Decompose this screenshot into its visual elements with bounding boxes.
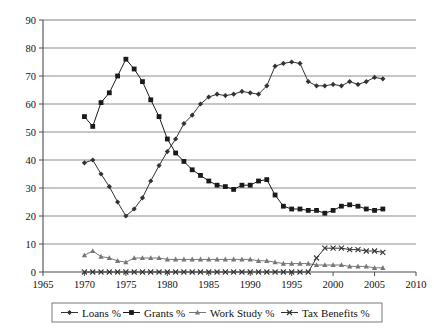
data-point <box>347 202 352 207</box>
legend-label: Work Study % <box>210 307 275 319</box>
y-tick-label: 80 <box>26 43 37 54</box>
data-point <box>298 207 303 212</box>
data-point <box>356 204 361 209</box>
data-point <box>215 183 220 188</box>
y-tick-label: 90 <box>26 15 37 26</box>
data-point <box>99 100 104 105</box>
x-tick-label: 2010 <box>406 279 427 290</box>
data-point <box>240 183 245 188</box>
data-point <box>264 177 269 182</box>
data-point <box>314 208 319 213</box>
data-point <box>273 193 278 198</box>
x-tick-label: 2000 <box>323 279 344 290</box>
data-point <box>173 151 178 156</box>
x-tick-label: 1970 <box>74 279 95 290</box>
data-point <box>339 204 344 209</box>
data-point <box>140 79 145 84</box>
legend-label: Tax Benefits % <box>302 307 370 319</box>
data-point <box>322 211 327 216</box>
data-point <box>306 208 311 213</box>
data-point <box>289 207 294 212</box>
data-point <box>123 57 128 62</box>
x-tick-label: 1980 <box>157 279 178 290</box>
data-point <box>165 137 170 142</box>
data-point <box>380 207 385 212</box>
data-point <box>115 74 120 79</box>
data-point <box>198 173 203 178</box>
data-point <box>107 90 112 95</box>
line-chart: 0102030405060708090 19651970197519801985… <box>0 0 434 332</box>
y-axis-ticks: 0102030405060708090 <box>26 15 44 278</box>
data-point <box>206 179 211 184</box>
data-point <box>248 183 253 188</box>
x-axis-ticks: 1965197019751980198519901995200020052010 <box>33 272 427 290</box>
y-tick-label: 50 <box>26 127 37 138</box>
y-tick-label: 60 <box>26 99 37 110</box>
data-point <box>148 97 153 102</box>
y-tick-label: 40 <box>26 155 37 166</box>
data-point <box>129 310 134 315</box>
data-point <box>157 114 162 119</box>
y-tick-label: 70 <box>26 71 37 82</box>
y-tick-label: 10 <box>26 239 37 250</box>
data-point <box>281 204 286 209</box>
data-point <box>90 124 95 129</box>
data-point <box>82 114 87 119</box>
legend-label: Grants % <box>144 307 185 319</box>
data-point <box>182 159 187 164</box>
y-tick-label: 20 <box>26 211 37 222</box>
legend-label: Loans % <box>82 307 121 319</box>
y-tick-label: 0 <box>31 267 36 278</box>
plot-background <box>43 20 415 272</box>
data-point <box>256 179 261 184</box>
x-tick-label: 1965 <box>33 279 54 290</box>
x-tick-label: 1990 <box>240 279 261 290</box>
y-tick-label: 30 <box>26 183 37 194</box>
data-point <box>331 208 336 213</box>
x-tick-label: 2005 <box>364 279 385 290</box>
chart-legend: Loans %Grants %Work Study %Tax Benefits … <box>52 303 382 322</box>
data-point <box>364 207 369 212</box>
data-point <box>132 67 137 72</box>
data-point <box>231 187 236 192</box>
x-tick-label: 1995 <box>281 279 302 290</box>
x-tick-label: 1985 <box>198 279 219 290</box>
x-tick-label: 1975 <box>115 279 136 290</box>
data-point <box>223 184 228 189</box>
data-point <box>372 208 377 213</box>
data-point <box>190 167 195 172</box>
chart-container: 0102030405060708090 19651970197519801985… <box>0 0 434 332</box>
